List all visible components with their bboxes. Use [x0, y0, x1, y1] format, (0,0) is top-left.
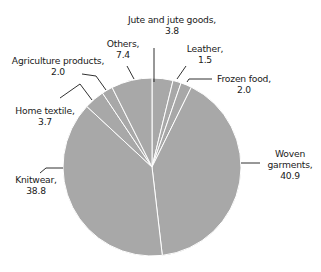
label-others: Others, 7.4 [100, 38, 146, 60]
label-woven-garments: Woven garments, 40.9 [262, 148, 318, 181]
leader-line-home-textile [60, 84, 92, 100]
leader-line-frozen-food [187, 79, 212, 82]
label-knitwear: Knitwear, 38.8 [8, 174, 64, 196]
leader-line-others [127, 66, 134, 79]
label-home-textile-value: 3.7 [10, 116, 80, 127]
label-home-textile-name: Home textile, [10, 105, 80, 116]
label-frozen-food: Frozen food, 2.0 [214, 73, 274, 95]
label-agriculture: Agriculture products, 2.0 [10, 55, 106, 77]
label-frozen-food-value: 2.0 [214, 84, 274, 95]
label-knitwear-name: Knitwear, [8, 174, 64, 185]
label-jute-value: 3.8 [117, 25, 227, 36]
label-jute: Jute and jute goods, 3.8 [117, 14, 227, 36]
label-leather-value: 1.5 [180, 54, 230, 65]
label-woven-value: 40.9 [262, 170, 318, 181]
label-others-name: Others, [100, 38, 146, 49]
label-others-value: 7.4 [100, 49, 146, 60]
label-home-textile: Home textile, 3.7 [10, 105, 80, 127]
label-leather-name: Leather, [180, 43, 230, 54]
leader-line-leather [177, 66, 186, 79]
label-frozen-food-name: Frozen food, [214, 73, 274, 84]
leader-line-knitwear [40, 168, 63, 173]
pie-slices [63, 78, 241, 256]
label-woven-name2: garments, [262, 159, 318, 170]
label-leather: Leather, 1.5 [180, 43, 230, 65]
label-agriculture-name: Agriculture products, [10, 55, 106, 66]
label-agriculture-value: 2.0 [10, 66, 106, 77]
label-knitwear-value: 38.8 [8, 185, 64, 196]
label-jute-name: Jute and jute goods, [117, 14, 227, 25]
label-woven-name: Woven [262, 148, 318, 159]
pie-chart [0, 0, 321, 272]
